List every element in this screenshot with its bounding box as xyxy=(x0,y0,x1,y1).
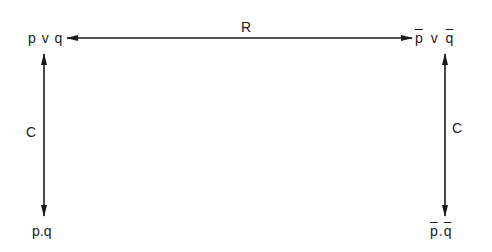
node-part: p xyxy=(430,224,438,238)
node-not-p-or-not-q: p v q xyxy=(415,31,453,45)
edge-label-r: R xyxy=(241,20,252,34)
node-p-or-q: p v q xyxy=(28,31,62,45)
node-part: v xyxy=(431,31,438,45)
node-part: p xyxy=(32,224,40,238)
node-not-p-and-not-q: p.q xyxy=(430,224,451,238)
node-part: q xyxy=(444,224,452,238)
node-part: p xyxy=(28,31,36,45)
node-part: q xyxy=(44,224,52,238)
node-part: q xyxy=(446,31,454,45)
edge-label-c-right: C xyxy=(452,121,463,135)
node-p-and-q: p.q xyxy=(32,224,51,238)
node-part: v xyxy=(42,31,49,45)
node-part: . xyxy=(439,224,443,238)
edge-label-c-left: C xyxy=(26,125,37,139)
node-part: q xyxy=(55,31,63,45)
node-part: p xyxy=(415,31,423,45)
